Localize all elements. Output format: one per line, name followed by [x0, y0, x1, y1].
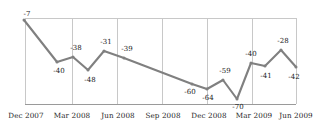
chart-plot-area: [0, 0, 319, 130]
data-point-marker-7: [206, 88, 209, 91]
data-point-marker-8: [222, 79, 225, 82]
series-line-path: [24, 20, 296, 99]
data-point-marker-12: [280, 49, 283, 52]
vertical-gridlines: [26, 18, 297, 104]
data-point-marker-5: [123, 57, 126, 60]
data-point-marker-13: [295, 66, 298, 69]
data-point-marker-6: [191, 83, 194, 86]
data-point-marker-4: [103, 50, 106, 53]
data-point-marker-9: [236, 98, 239, 101]
data-point-marker-1: [56, 61, 59, 64]
line-chart: Dec 2007Mar 2008Jun 2008Sep 2008Dec 2008…: [0, 0, 319, 130]
data-point-marker-2: [72, 56, 75, 59]
data-point-marker-0: [23, 19, 26, 22]
data-point-marker-10: [250, 62, 253, 65]
data-point-marker-11: [264, 65, 267, 68]
data-point-marker-3: [87, 69, 90, 72]
data-series-line: [24, 20, 296, 99]
